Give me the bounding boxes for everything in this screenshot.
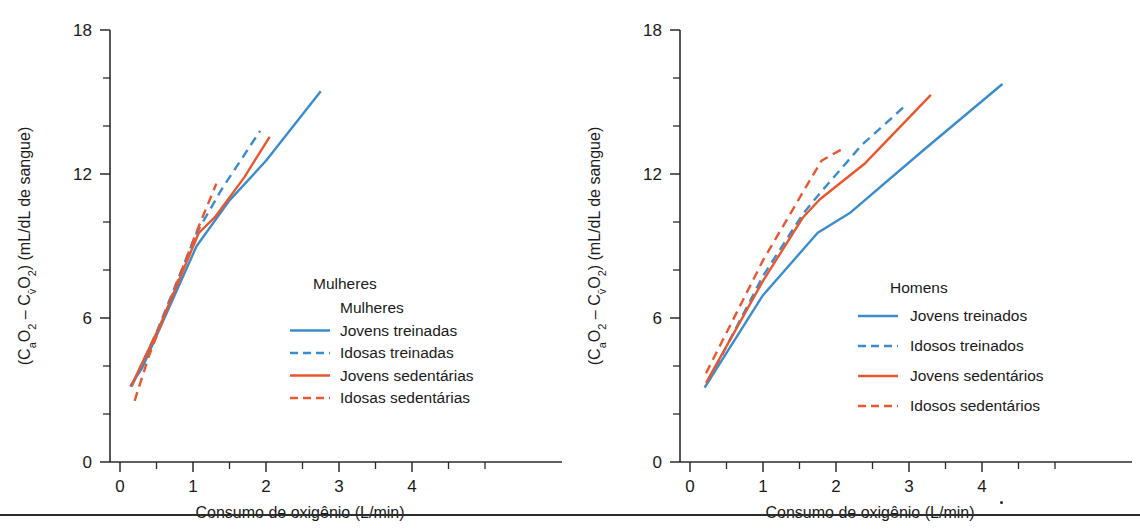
y-axis-title: (CaO2 – Cv̄O2) (mL/dL de sangue) xyxy=(586,127,608,366)
x-tick-label-0: 0 xyxy=(685,477,694,496)
legend-label: Jovens sedentários xyxy=(910,367,1044,384)
series-line xyxy=(130,91,321,386)
chart-svg-mulheres: 0 6 12 18 0 1 2 3 4 xyxy=(0,0,570,530)
y-tick-label-0: 0 xyxy=(653,453,662,472)
x-tick-label-4: 4 xyxy=(977,477,986,496)
y-tick-label-12: 12 xyxy=(643,165,662,184)
series-group-left xyxy=(130,91,321,401)
x-axis-title: Consumo de oxigênio (L/min) xyxy=(196,504,405,521)
legend-label: Jovens treinadas xyxy=(340,322,457,339)
x-tick-label-1: 1 xyxy=(188,477,197,496)
x-tick-label-0: 0 xyxy=(115,477,124,496)
chart-svg-homens: 0 6 12 18 0 1 2 3 4 Consumo de xyxy=(570,0,1140,530)
legend-homens: Homens Jovens treinadosIdosos treinadosJ… xyxy=(858,279,1044,414)
y-tick-label-6: 6 xyxy=(653,309,662,328)
legend-label: Mulheres xyxy=(340,299,404,316)
y-tick-label-12: 12 xyxy=(73,165,92,184)
x-tick-label-4: 4 xyxy=(407,477,416,496)
x-tick-label-2: 2 xyxy=(261,477,270,496)
series-line xyxy=(706,95,931,383)
x-axis-title: Consumo de oxigênio (L/min) xyxy=(766,504,975,521)
chart-panel-mulheres: 0 6 12 18 0 1 2 3 4 xyxy=(0,0,570,530)
x-tick-label-3: 3 xyxy=(904,477,913,496)
x-tick-label-1: 1 xyxy=(758,477,767,496)
legend-title-right: Homens xyxy=(890,279,948,296)
y-tick-label-18: 18 xyxy=(73,21,92,40)
legend-mulheres: Mulheres MulheresJovens treinadasIdosas … xyxy=(290,275,474,406)
legend-label: Jovens sedentárias xyxy=(340,367,474,384)
svg-text:(CaO2 – Cv̄O2) (mL/dL de sangu: (CaO2 – Cv̄O2) (mL/dL de sangue) xyxy=(16,127,38,366)
legend-label: Idosos sedentários xyxy=(910,397,1040,414)
legend-label: Idosas sedentárias xyxy=(340,389,470,406)
legend-label: Jovens treinados xyxy=(910,307,1027,324)
y-axis-title: (CaO2 – Cv̄O2) (mL/dL de sangue) xyxy=(16,127,38,366)
y-tick-label-18: 18 xyxy=(643,21,662,40)
y-tick-label-6: 6 xyxy=(83,309,92,328)
y-axis-ticks-left xyxy=(100,30,110,462)
y-tick-label-0: 0 xyxy=(83,453,92,472)
svg-text:(CaO2 – Cv̄O2) (mL/dL de sangu: (CaO2 – Cv̄O2) (mL/dL de sangue) xyxy=(586,127,608,366)
x-axis-ticks-right xyxy=(690,462,1055,472)
x-axis-ticks-left xyxy=(120,462,485,472)
figure-two-panel-chart: 0 6 12 18 0 1 2 3 4 xyxy=(0,0,1140,530)
page-corner-dot xyxy=(1000,501,1003,504)
x-tick-label-3: 3 xyxy=(334,477,343,496)
legend-entries-left: MulheresJovens treinadasIdosas treinadas… xyxy=(290,299,474,406)
legend-entries-right: Jovens treinadosIdosos treinadosJovens s… xyxy=(858,307,1044,414)
chart-panel-homens: 0 6 12 18 0 1 2 3 4 Consumo de xyxy=(570,0,1140,530)
legend-label: Idosos treinados xyxy=(910,337,1024,354)
bottom-rule-divider xyxy=(0,514,1140,516)
legend-title-left: Mulheres xyxy=(313,275,377,292)
legend-label: Idosas treinadas xyxy=(340,344,454,361)
y-axis-ticks-right xyxy=(670,30,680,462)
x-tick-label-2: 2 xyxy=(831,477,840,496)
